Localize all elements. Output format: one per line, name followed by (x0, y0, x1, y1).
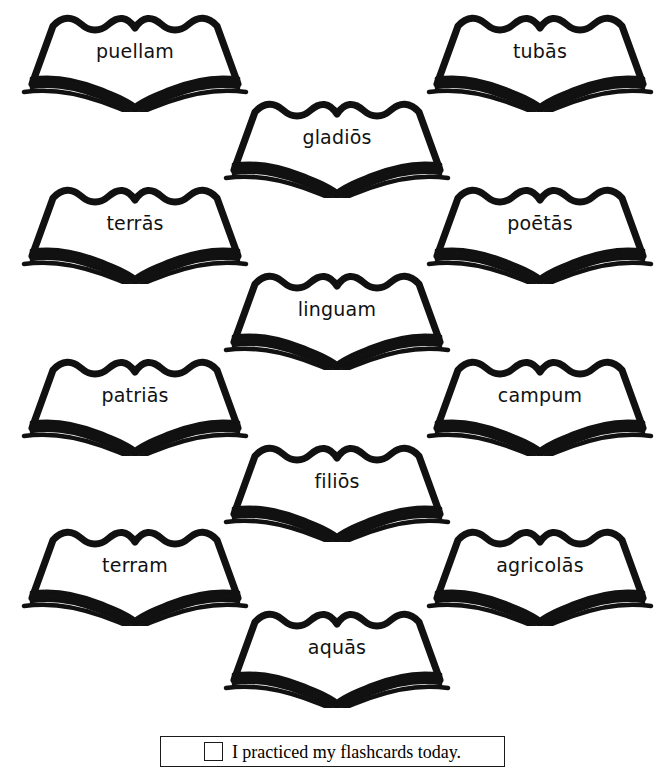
flashcard-word: terrās (10, 212, 260, 234)
flashcard-terrās[interactable]: terrās (10, 184, 260, 284)
open-book-icon (10, 184, 260, 284)
practiced-checkbox-row[interactable]: I practiced my flashcards today. (160, 736, 505, 767)
practiced-label: I practiced my flashcards today. (232, 743, 461, 761)
flashcard-word: tubās (415, 40, 665, 62)
open-book-icon (415, 184, 665, 284)
open-book-icon (415, 12, 665, 112)
flashcard-word: puellam (10, 40, 260, 62)
flashcard-tubās[interactable]: tubās (415, 12, 665, 112)
flashcard-puellam[interactable]: puellam (10, 12, 260, 112)
flashcard-worksheet: puellam tubās gladiōs t (0, 0, 669, 781)
flashcard-poētās[interactable]: poētās (415, 184, 665, 284)
flashcard-word: poētās (415, 212, 665, 234)
flashcard-word: campum (415, 384, 665, 406)
flashcard-word: patriās (10, 384, 260, 406)
flashcard-campum[interactable]: campum (415, 356, 665, 456)
flashcard-patriās[interactable]: patriās (10, 356, 260, 456)
flashcard-aquās[interactable]: aquās (212, 608, 462, 708)
flashcard-gladiōs[interactable]: gladiōs (212, 98, 462, 198)
flashcard-word: terram (10, 554, 260, 576)
open-book-icon (10, 12, 260, 112)
flashcard-word: aquās (212, 636, 462, 658)
open-book-icon (10, 356, 260, 456)
open-book-icon (212, 98, 462, 198)
practiced-checkbox[interactable] (204, 742, 223, 761)
flashcard-word: filiōs (212, 470, 462, 492)
flashcard-word: linguam (212, 298, 462, 320)
open-book-icon (415, 356, 665, 456)
flashcard-word: agricolās (415, 554, 665, 576)
flashcard-word: gladiōs (212, 126, 462, 148)
flashcard-linguam[interactable]: linguam (212, 270, 462, 370)
open-book-icon (212, 608, 462, 708)
open-book-icon (212, 270, 462, 370)
